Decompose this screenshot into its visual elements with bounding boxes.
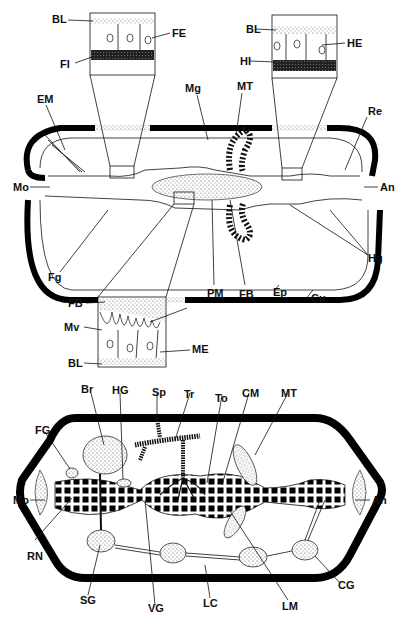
body-systems-diagram: Br HG Sp Tr To CM MT FG Mo An RN SG VG L… bbox=[13, 383, 387, 614]
hindgut-inset-marker bbox=[282, 168, 302, 180]
epidermal-muscle bbox=[45, 135, 85, 172]
label-frontal-ganglion: FG bbox=[35, 424, 50, 436]
label-circular-muscle: CM bbox=[242, 387, 259, 399]
foregut-inset bbox=[90, 13, 155, 166]
label-foregut: Fg bbox=[48, 271, 61, 283]
label-rectum: Re bbox=[368, 105, 382, 117]
label-hindgut-epithelium: HE bbox=[347, 37, 362, 49]
label-basal-lamina-hind: BL bbox=[246, 23, 261, 35]
label-cuticle: Cu bbox=[311, 292, 326, 304]
label-mouth: Mo bbox=[13, 181, 29, 193]
anatomy-figure: BL FE FI BL HE HI EM Mg MT Re Mo An Fg H… bbox=[0, 0, 399, 618]
label-brain: Br bbox=[81, 383, 94, 395]
hindgut-inset bbox=[272, 15, 337, 168]
foregut-cuticle-patch bbox=[95, 125, 150, 131]
label-longitudinal-muscle: LM bbox=[282, 600, 298, 612]
label-hypocerebral-ganglion: HG bbox=[112, 384, 129, 396]
ventral-ganglion-2 bbox=[239, 547, 267, 567]
gut-section-diagram: BL FE FI BL HE HI EM Mg MT Re Mo An Fg H… bbox=[13, 13, 395, 369]
label-caudal-ganglion: CG bbox=[338, 579, 355, 591]
brain bbox=[83, 436, 127, 474]
label-anus: An bbox=[372, 494, 387, 506]
label-anus: An bbox=[380, 181, 395, 193]
label-subesophageal-ganglion: SG bbox=[80, 594, 96, 606]
label-spiracle: Sp bbox=[152, 386, 166, 398]
label-hindgut-intima: HI bbox=[240, 55, 251, 67]
label-midgut-epithelium: ME bbox=[192, 343, 209, 355]
peritrophic-matrix bbox=[152, 174, 262, 200]
label-tracheole: To bbox=[215, 392, 228, 404]
label-midgut: Mg bbox=[185, 82, 201, 94]
label-foregut-intima: FI bbox=[60, 58, 70, 70]
label-malpighian-tubule: MT bbox=[237, 80, 253, 92]
anus-opening bbox=[353, 470, 367, 515]
label-food-bolus: FB bbox=[239, 288, 254, 300]
label-trachea: Tr bbox=[184, 388, 195, 400]
label-hindgut: Hg bbox=[368, 252, 383, 264]
label-inset-food-bolus: FB bbox=[68, 297, 83, 309]
label-basal-lamina-fore: BL bbox=[52, 13, 67, 25]
label-foregut-epithelium: FE bbox=[172, 27, 186, 39]
frontal-ganglion bbox=[66, 468, 78, 478]
label-inset-basal-lamina: BL bbox=[68, 357, 83, 369]
label-malpighian-tubule: MT bbox=[281, 387, 297, 399]
midgut-inset bbox=[98, 204, 194, 367]
label-ventral-ganglion: VG bbox=[148, 602, 164, 614]
ventral-ganglion-1 bbox=[160, 543, 186, 563]
gut-muscle-grid bbox=[55, 474, 345, 518]
label-longitudinal-connective: LC bbox=[203, 597, 218, 609]
label-recurrent-nerve: RN bbox=[27, 550, 43, 562]
label-epidermal-muscle: EM bbox=[37, 93, 54, 105]
label-mouth: Mo bbox=[13, 494, 29, 506]
malpighian-tubule-upper bbox=[229, 130, 250, 172]
subesophageal-ganglion bbox=[87, 530, 115, 552]
hypocerebral-ganglion bbox=[117, 479, 131, 487]
label-microvilli: Mv bbox=[64, 321, 80, 333]
mouth-opening bbox=[35, 470, 48, 515]
caudal-ganglion bbox=[292, 540, 318, 560]
label-epidermis: Ep bbox=[273, 286, 287, 298]
label-peritrophic-matrix: PM bbox=[207, 287, 224, 299]
